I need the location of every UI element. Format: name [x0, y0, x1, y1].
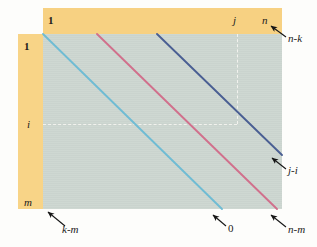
- row-label-last: m: [24, 197, 32, 208]
- annotation-zero: 0: [228, 223, 234, 234]
- column-index-band: [43, 8, 282, 34]
- column-label-middle: j: [233, 15, 236, 26]
- arrow-n-m: [271, 215, 286, 227]
- annotation-n-k: n-k: [288, 33, 302, 44]
- row-index-band: [18, 34, 43, 209]
- annotation-n-m: n-m: [288, 224, 305, 235]
- row-label-middle: i: [27, 119, 30, 130]
- row-i-guide-line: [43, 124, 237, 125]
- column-j-guide-line: [237, 34, 238, 124]
- column-label-first: 1: [48, 15, 54, 26]
- annotation-k-m: k-m: [62, 224, 79, 235]
- row-label-first: 1: [24, 41, 30, 52]
- arrow-zero: [213, 215, 226, 226]
- annotation-j-i: j-i: [288, 165, 298, 176]
- matrix-body: [43, 34, 282, 209]
- column-label-last: n: [262, 15, 268, 26]
- banded-matrix-figure: 1 j n 1 i m n-k j-i k-m 0 n-m: [0, 0, 317, 247]
